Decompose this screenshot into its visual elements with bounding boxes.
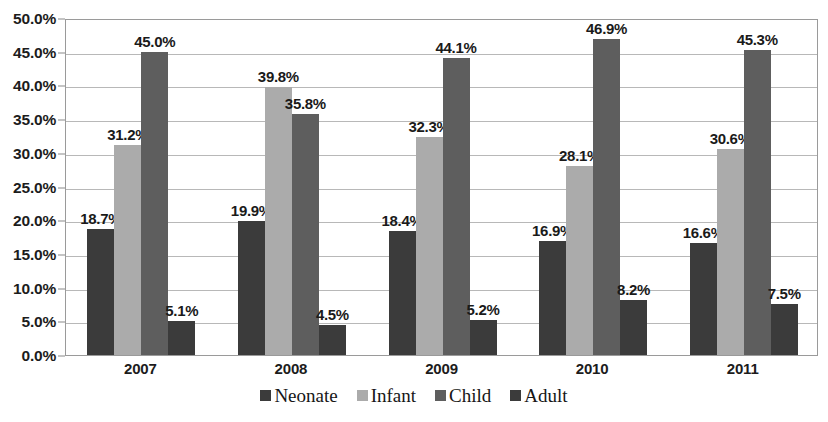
bar-neonate-2007[interactable]: 18.7% bbox=[87, 229, 114, 355]
y-axis-tick-mark bbox=[58, 187, 65, 188]
legend-label: Adult bbox=[524, 386, 567, 405]
bar-child-2009[interactable]: 44.1% bbox=[443, 58, 470, 355]
bar-neonate-2011[interactable]: 16.6% bbox=[690, 243, 717, 355]
legend-swatch-icon bbox=[435, 390, 446, 401]
bar-value-label: 5.1% bbox=[165, 302, 198, 319]
bar-neonate-2009[interactable]: 18.4% bbox=[389, 231, 416, 355]
bar-value-label: 5.2% bbox=[467, 301, 500, 318]
bar-adult-2011[interactable]: 7.5% bbox=[771, 304, 798, 355]
bar-child-2007[interactable]: 45.0% bbox=[141, 52, 168, 355]
bar-infant-2008[interactable]: 39.8% bbox=[265, 87, 292, 355]
bar-value-label: 46.9% bbox=[586, 20, 627, 37]
bar-child-2008[interactable]: 35.8% bbox=[292, 114, 319, 355]
x-axis-tick-label: 2010 bbox=[576, 360, 609, 377]
legend-item-child[interactable]: Child bbox=[435, 386, 491, 405]
bar-child-2010[interactable]: 46.9% bbox=[593, 39, 620, 355]
y-axis-tick-label: 30.0% bbox=[13, 145, 56, 163]
bar-infant-2011[interactable]: 30.6% bbox=[717, 149, 744, 355]
y-axis-tick-mark bbox=[58, 322, 65, 323]
y-axis-tick-mark bbox=[58, 52, 65, 53]
legend-label: Infant bbox=[371, 386, 416, 405]
bar-infant-2009[interactable]: 32.3% bbox=[416, 137, 443, 355]
bar-value-label: 45.3% bbox=[737, 31, 778, 48]
legend-label: Child bbox=[449, 386, 491, 405]
legend-swatch-icon bbox=[260, 390, 271, 401]
y-axis-tick-mark bbox=[58, 254, 65, 255]
bar-infant-2007[interactable]: 31.2% bbox=[114, 145, 141, 355]
bar-value-label: 8.2% bbox=[617, 281, 650, 298]
bar-group: 18.4%32.3%44.1%5.2% bbox=[389, 20, 497, 355]
y-axis-tick-mark bbox=[58, 221, 65, 222]
bar-child-2011[interactable]: 45.3% bbox=[744, 50, 771, 355]
y-axis-tick-label: 40.0% bbox=[13, 77, 56, 95]
y-axis-tick-label: 0.0% bbox=[21, 347, 56, 365]
legend-item-infant[interactable]: Infant bbox=[357, 386, 416, 405]
bar-groups: 18.7%31.2%45.0%5.1%19.9%39.8%35.8%4.5%18… bbox=[66, 20, 817, 355]
bar-value-label: 35.8% bbox=[285, 95, 326, 112]
legend-item-neonate[interactable]: Neonate bbox=[260, 386, 337, 405]
bar-value-label: 4.5% bbox=[316, 306, 349, 323]
x-axis-tick-label: 2008 bbox=[275, 360, 308, 377]
bar-adult-2009[interactable]: 5.2% bbox=[470, 320, 497, 355]
y-axis-tick-mark bbox=[58, 153, 65, 154]
x-axis: 20072008200920102011 bbox=[65, 358, 818, 384]
y-axis-tick-mark bbox=[58, 356, 65, 357]
bar-chart: 0.0%5.0%10.0%15.0%20.0%25.0%30.0%35.0%40… bbox=[0, 0, 828, 422]
bar-adult-2010[interactable]: 8.2% bbox=[620, 300, 647, 355]
bar-adult-2007[interactable]: 5.1% bbox=[168, 321, 195, 355]
y-axis-tick-mark bbox=[58, 120, 65, 121]
y-axis-tick-mark bbox=[58, 288, 65, 289]
y-axis-tick-mark bbox=[58, 19, 65, 20]
bar-group: 16.6%30.6%45.3%7.5% bbox=[690, 20, 798, 355]
bar-value-label: 44.1% bbox=[435, 39, 476, 56]
y-axis-tick-mark bbox=[58, 86, 65, 87]
bar-value-label: 7.5% bbox=[768, 285, 801, 302]
plot-area: 18.7%31.2%45.0%5.1%19.9%39.8%35.8%4.5%18… bbox=[65, 19, 818, 356]
legend-item-adult[interactable]: Adult bbox=[510, 386, 567, 405]
y-axis-tick-label: 5.0% bbox=[21, 313, 56, 331]
y-axis-tick-label: 35.0% bbox=[13, 111, 56, 129]
y-axis-tick-label: 15.0% bbox=[13, 246, 56, 264]
legend-swatch-icon bbox=[510, 390, 521, 401]
bar-neonate-2010[interactable]: 16.9% bbox=[539, 241, 566, 355]
bar-group: 16.9%28.1%46.9%8.2% bbox=[539, 20, 647, 355]
x-axis-tick-label: 2009 bbox=[425, 360, 458, 377]
bar-group: 18.7%31.2%45.0%5.1% bbox=[87, 20, 195, 355]
y-axis-tick-label: 50.0% bbox=[13, 10, 56, 28]
legend-swatch-icon bbox=[357, 390, 368, 401]
bar-value-label: 39.8% bbox=[258, 68, 299, 85]
bar-value-label: 45.0% bbox=[134, 33, 175, 50]
bar-neonate-2008[interactable]: 19.9% bbox=[238, 221, 265, 355]
y-axis-tick-label: 45.0% bbox=[13, 44, 56, 62]
bar-adult-2008[interactable]: 4.5% bbox=[319, 325, 346, 355]
x-axis-tick-label: 2011 bbox=[727, 360, 759, 377]
legend-label: Neonate bbox=[274, 386, 337, 405]
bar-infant-2010[interactable]: 28.1% bbox=[566, 166, 593, 355]
bar-group: 19.9%39.8%35.8%4.5% bbox=[238, 20, 346, 355]
y-axis-tick-label: 10.0% bbox=[13, 280, 56, 298]
y-axis: 0.0%5.0%10.0%15.0%20.0%25.0%30.0%35.0%40… bbox=[0, 0, 62, 356]
x-axis-tick-label: 2007 bbox=[124, 360, 157, 377]
chart-legend: NeonateInfantChildAdult bbox=[0, 386, 828, 405]
y-axis-tick-label: 25.0% bbox=[13, 179, 56, 197]
y-axis-tick-label: 20.0% bbox=[13, 212, 56, 230]
